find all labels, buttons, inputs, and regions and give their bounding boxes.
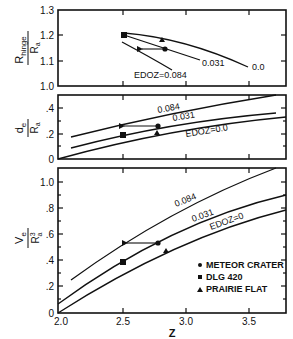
- middle-y-tick-labels: .4 .2 0: [46, 103, 55, 165]
- xtick-3.5: 3.5: [242, 316, 256, 327]
- top-ylabel-den: R: [29, 46, 40, 53]
- legend-circle-icon: [198, 263, 202, 267]
- top-curve-edoz-0.084: [122, 42, 172, 70]
- top-curve-labels: EDOZ=0.084 0.031 0.0: [134, 58, 265, 80]
- bot-marker-dlg420: [120, 259, 126, 265]
- bot-ytick-0.2: .2: [46, 281, 55, 292]
- svg-text:de: de: [13, 122, 28, 133]
- top-y-axis-label: Rhinge Ra: [13, 31, 41, 65]
- middle-y-axis-label: de Ra: [13, 119, 41, 137]
- bot-ytick-0.6: .6: [46, 229, 55, 240]
- svg-text:Ve: Ve: [13, 232, 28, 244]
- legend-label-dlg420: DLG 420: [206, 272, 243, 282]
- figure: 1.3 1.2 1.1 1.0 Rhinge Ra EDOZ=0.084 0.0…: [0, 0, 293, 339]
- top-curves: [122, 33, 248, 70]
- bot-ytick-0.4: .4: [46, 255, 55, 266]
- bot-ytick-0.8: .8: [46, 203, 55, 214]
- top-ylabel-num-sub: hinge: [19, 36, 28, 56]
- bot-label-0.084: 0.084: [173, 191, 198, 209]
- xtick-3.0: 3.0: [179, 316, 193, 327]
- mid-marker-meteor-crater: [155, 123, 160, 128]
- xtick-2.5: 2.5: [116, 316, 130, 327]
- mid-ytick-0.4: .4: [46, 103, 55, 114]
- bot-ylabel-den-sub: a: [36, 232, 43, 236]
- top-ytick-1.0: 1.0: [40, 81, 54, 92]
- middle-x-ticks: [123, 95, 249, 159]
- bottom-y-tick-labels: 1.0 .8 .6 .4 .2 0: [40, 177, 54, 319]
- bot-marker-prairie-flat: [163, 248, 169, 253]
- svg-text:R3a: R3a: [29, 232, 43, 243]
- top-label-0.0: 0.0: [252, 62, 265, 72]
- top-ytick-1.2: 1.2: [40, 30, 54, 41]
- svg-text:Ra: Ra: [29, 122, 41, 133]
- legend-item-prairie-flat: PRAIRIE FLAT: [197, 284, 268, 294]
- bottom-y-axis-label: Ve R3a: [13, 228, 43, 248]
- bot-ylabel-den-sup: 3: [29, 232, 36, 236]
- legend-square-icon: [198, 275, 202, 279]
- middle-panel: .4 .2 0 de Ra 0.084 0.031 EDOZ=0.0: [13, 95, 286, 165]
- bottom-x-tick-labels: 2.0 2.5 3.0 3.5: [54, 316, 256, 327]
- xtick-2.0: 2.0: [54, 316, 68, 327]
- top-label-0.031: 0.031: [202, 58, 225, 68]
- mid-curve-edoz-0.0: [58, 117, 286, 159]
- bot-ylabel-num-sub: e: [19, 232, 28, 237]
- top-ytick-1.3: 1.3: [40, 5, 54, 16]
- mid-marker-dlg420: [120, 132, 126, 138]
- top-curve-0.0: [124, 33, 248, 67]
- svg-text:Rhinge: Rhinge: [13, 36, 28, 64]
- mid-ytick-0: 0: [48, 154, 54, 165]
- legend-label-prairie-flat: PRAIRIE FLAT: [206, 284, 268, 294]
- top-marker-meteor-crater: [162, 46, 167, 51]
- mid-label-0.031: 0.031: [172, 110, 196, 123]
- mid-ylabel-num-sub: e: [19, 122, 28, 127]
- top-panel: 1.3 1.2 1.1 1.0 Rhinge Ra EDOZ=0.084 0.0…: [13, 5, 286, 92]
- mid-ylabel-den: R: [29, 126, 40, 133]
- mid-ylabel-den-sub: a: [34, 122, 41, 126]
- bot-ytick-1.0: 1.0: [40, 177, 54, 188]
- top-y-tick-labels: 1.3 1.2 1.1 1.0: [40, 5, 54, 92]
- legend-item-dlg420: DLG 420: [198, 272, 243, 282]
- bot-marker-meteor-crater: [155, 240, 160, 245]
- top-ylabel-num: R: [13, 56, 25, 64]
- mid-marker-prairie-flat: [154, 130, 160, 135]
- legend: METEOR CRATER DLG 420 PRAIRIE FLAT: [197, 260, 284, 294]
- bottom-panel: 1.0 .8 .6 .4 .2 0 2.0 2.5 3.0 3.5 Z Ve R…: [13, 168, 286, 339]
- legend-label-meteor-crater: METEOR CRATER: [206, 260, 284, 270]
- top-ytick-1.1: 1.1: [40, 56, 54, 67]
- mid-ytick-0.2: .2: [46, 129, 55, 140]
- legend-item-meteor-crater: METEOR CRATER: [198, 260, 284, 270]
- top-y-ticks: [58, 35, 286, 61]
- mid-label-edoz-0.0: EDOZ=0.0: [185, 122, 229, 139]
- legend-triangle-icon: [197, 287, 203, 292]
- svg-text:Ra: Ra: [29, 42, 41, 53]
- top-label-edoz-0.084: EDOZ=0.084: [134, 70, 187, 80]
- x-axis-label: Z: [169, 327, 176, 339]
- top-ylabel-den-sub: a: [34, 42, 41, 46]
- top-marker-dlg420: [121, 32, 127, 38]
